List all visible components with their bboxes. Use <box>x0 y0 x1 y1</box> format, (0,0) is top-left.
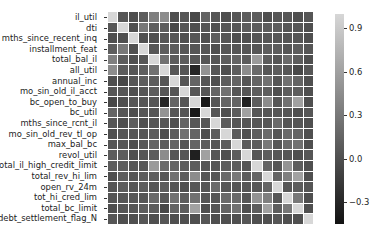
heatmap-cell <box>242 118 251 128</box>
heatmap-cell <box>211 204 220 214</box>
heatmap-cell <box>293 108 302 118</box>
heatmap-cell <box>252 108 261 118</box>
heatmap-cell <box>108 44 117 54</box>
heatmap-cell <box>283 44 292 54</box>
heatmap-cell <box>129 172 138 182</box>
heatmap-cell <box>149 161 158 171</box>
heatmap-cell <box>211 55 220 65</box>
heatmap-cell <box>139 108 148 118</box>
heatmap-cell <box>108 76 117 86</box>
y-tick-label: il_util <box>75 12 97 23</box>
heatmap-cell <box>273 97 282 107</box>
heatmap-cell <box>304 65 313 75</box>
heatmap-cell <box>118 44 127 54</box>
heatmap-cell <box>221 172 230 182</box>
heatmap-cell <box>263 172 272 182</box>
heatmap-cell <box>221 161 230 171</box>
heatmap-cell <box>160 204 169 214</box>
heatmap-cell <box>160 33 169 43</box>
heatmap-cell <box>129 140 138 150</box>
heatmap-cell <box>170 172 179 182</box>
heatmap-cell <box>108 33 117 43</box>
heatmap-cell <box>190 23 199 33</box>
heatmap-cell <box>139 87 148 97</box>
heatmap-cell <box>108 23 117 33</box>
heatmap-cell <box>263 33 272 43</box>
heatmap-cell <box>201 65 210 75</box>
heatmap-cell <box>129 193 138 203</box>
heatmap-cell <box>252 97 261 107</box>
y-tick-label: debt_settlement_flag_N <box>0 213 97 224</box>
heatmap-cell <box>170 140 179 150</box>
heatmap-cell <box>304 150 313 160</box>
y-tick-label: total_bal_il <box>52 54 97 65</box>
heatmap-cell <box>129 204 138 214</box>
heatmap-cell <box>149 150 158 160</box>
heatmap-cell <box>180 108 189 118</box>
heatmap-cell <box>211 161 220 171</box>
heatmap-cell <box>201 97 210 107</box>
heatmap-cell <box>139 97 148 107</box>
heatmap-cell <box>139 23 148 33</box>
heatmap-cell <box>129 150 138 160</box>
heatmap-cell <box>201 214 210 224</box>
heatmap-cell <box>263 87 272 97</box>
heatmap-cell <box>252 140 261 150</box>
heatmap-cell <box>232 150 241 160</box>
heatmap-cell <box>221 33 230 43</box>
heatmap-cell <box>221 97 230 107</box>
heatmap-cell <box>170 12 179 22</box>
heatmap-cell <box>108 118 117 128</box>
heatmap-cell <box>118 182 127 192</box>
heatmap-cell <box>242 23 251 33</box>
heatmap-cell <box>221 140 230 150</box>
heatmap-cell <box>149 129 158 139</box>
heatmap-cell <box>263 12 272 22</box>
heatmap-cell <box>304 12 313 22</box>
heatmap-cell <box>273 204 282 214</box>
heatmap-cell <box>180 33 189 43</box>
heatmap-cell <box>283 161 292 171</box>
heatmap-cell <box>170 97 179 107</box>
heatmap-cell <box>160 118 169 128</box>
heatmap-cell <box>108 12 117 22</box>
heatmap-cell <box>263 65 272 75</box>
heatmap-cell <box>190 129 199 139</box>
heatmap-cell <box>149 23 158 33</box>
heatmap-cell <box>232 44 241 54</box>
heatmap-cell <box>149 204 158 214</box>
y-tick-mark <box>104 113 107 114</box>
heatmap-cell <box>232 214 241 224</box>
colorbar-tick-mark <box>344 159 347 160</box>
heatmap-cell <box>190 182 199 192</box>
heatmap-cell <box>139 55 148 65</box>
heatmap-cell <box>129 214 138 224</box>
heatmap-cell <box>139 44 148 54</box>
heatmap-cell <box>108 129 117 139</box>
colorbar-tick-label: 0.6 <box>349 67 362 77</box>
y-tick-label: open_rv_24m <box>41 182 98 193</box>
heatmap-cell <box>283 55 292 65</box>
heatmap-cell <box>263 23 272 33</box>
heatmap-cell <box>201 55 210 65</box>
heatmap-cell <box>180 129 189 139</box>
heatmap-cell <box>273 161 282 171</box>
heatmap-cell <box>273 182 282 192</box>
heatmap-cell <box>304 108 313 118</box>
heatmap-cell <box>190 150 199 160</box>
heatmap-cell <box>118 118 127 128</box>
heatmap-cell <box>293 150 302 160</box>
heatmap-cell <box>293 129 302 139</box>
heatmap-cell <box>293 33 302 43</box>
heatmap-cell <box>160 193 169 203</box>
heatmap-cell <box>211 150 220 160</box>
heatmap-cell <box>149 55 158 65</box>
heatmap-cell <box>160 12 169 22</box>
heatmap-cell <box>242 44 251 54</box>
heatmap-cell <box>304 87 313 97</box>
heatmap-cell <box>273 108 282 118</box>
heatmap-cell <box>139 129 148 139</box>
heatmap-cell <box>232 129 241 139</box>
heatmap-cell <box>293 140 302 150</box>
heatmap-cell <box>139 150 148 160</box>
